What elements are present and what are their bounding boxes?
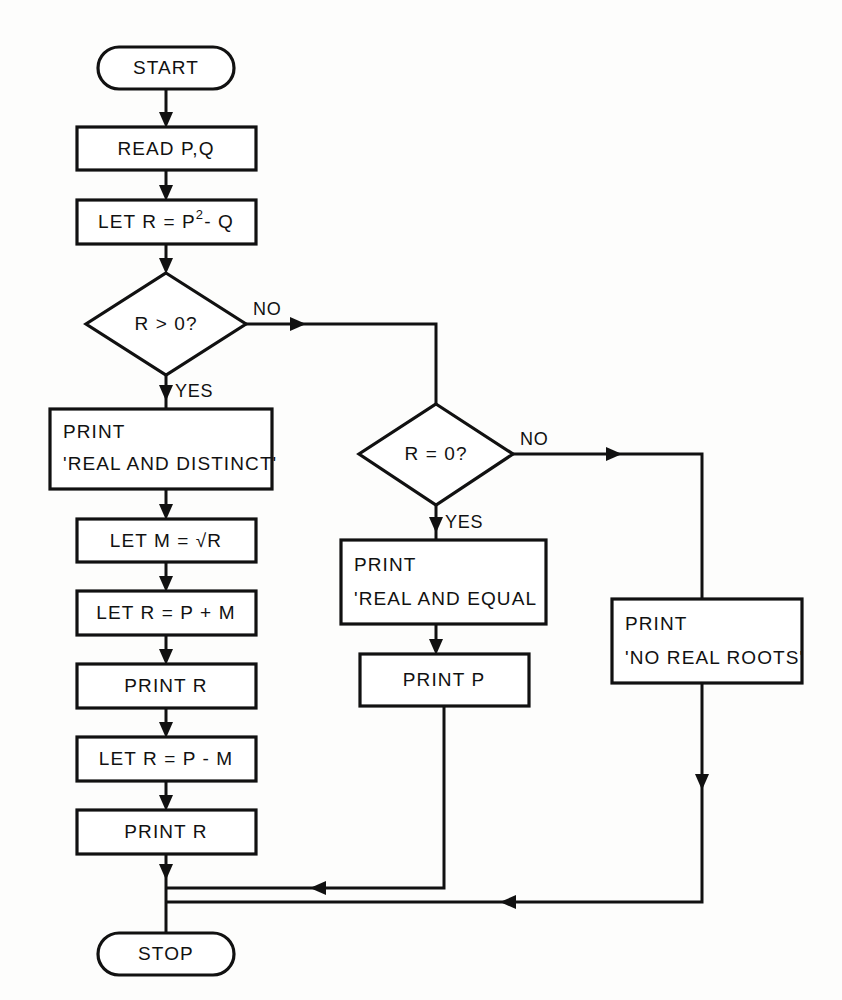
print-p-label: PRINT P <box>403 669 485 690</box>
let-r-disc-label: LET R = P2- Q <box>98 207 234 232</box>
let-r-disc-post: - Q <box>204 211 234 232</box>
node-print-r-first[interactable]: PRINT R <box>77 664 256 708</box>
edge-letr-to-decision-gt <box>159 244 173 274</box>
print-equal-line2: 'REAL AND EQUAL <box>354 588 537 609</box>
arrow-right-icon <box>606 447 622 461</box>
decision-eq-label: R = 0? <box>404 443 467 464</box>
node-print-p[interactable]: PRINT P <box>360 654 529 706</box>
stop-label: STOP <box>138 943 194 964</box>
print-distinct-line2: 'REAL AND DISTINCT' <box>63 453 277 474</box>
edge-printp-to-merge <box>167 706 444 895</box>
read-label: READ P,Q <box>117 138 214 159</box>
edge-read-to-letr <box>159 170 173 201</box>
arrow-right-icon <box>290 317 306 331</box>
flowchart-page: START READ P,Q LET R = P2- Q <box>0 0 842 1000</box>
node-let-m[interactable]: LET M = √R <box>77 519 256 562</box>
print-noroots-line2: 'NO REAL ROOTS' <box>625 647 804 668</box>
decision-gt-no-label: NO <box>253 299 282 319</box>
node-decision-r-greater-zero[interactable]: R > 0? <box>86 273 246 375</box>
edge-letm-to-letrplus <box>159 562 173 592</box>
arrow-down-icon <box>695 774 709 790</box>
print-noroots-line1: PRINT <box>625 613 688 634</box>
node-let-r-plus-m[interactable]: LET R = P + M <box>77 591 256 635</box>
let-r-plus-label: LET R = P + M <box>96 602 235 623</box>
edge-printequal-to-printp <box>429 624 443 655</box>
edge-decision-gt-yes: YES <box>159 375 213 409</box>
node-print-real-and-distinct[interactable]: PRINT 'REAL AND DISTINCT' <box>50 409 277 489</box>
start-label: START <box>133 57 199 78</box>
flowchart-canvas: START READ P,Q LET R = P2- Q <box>0 0 842 1000</box>
node-print-r-second[interactable]: PRINT R <box>77 810 256 854</box>
edge-printr1-to-letrminus <box>159 708 173 738</box>
let-m-label: LET M = √R <box>110 530 222 551</box>
node-print-real-and-equal[interactable]: PRINT 'REAL AND EQUAL <box>341 540 546 624</box>
let-r-minus-label: LET R = P - M <box>99 748 234 769</box>
print-noroots-box-shape <box>612 599 802 683</box>
node-let-r-minus-m[interactable]: LET R = P - M <box>77 737 256 781</box>
decision-eq-yes-label: YES <box>445 512 483 532</box>
decision-gt-label: R > 0? <box>134 313 197 334</box>
arrow-down-icon <box>429 517 443 533</box>
node-print-no-real-roots[interactable]: PRINT 'NO REAL ROOTS' <box>612 599 804 683</box>
print-distinct-line1: PRINT <box>63 421 126 442</box>
print-r2-label: PRINT R <box>124 821 207 842</box>
edge-letrminus-to-printr2 <box>159 781 173 811</box>
arrow-down-icon <box>159 864 173 880</box>
edge-decision-gt-no: NO <box>246 299 436 404</box>
node-let-r-discriminant[interactable]: LET R = P2- Q <box>77 200 256 244</box>
edge-letrplus-to-printr1 <box>159 635 173 665</box>
node-stop[interactable]: STOP <box>98 933 234 975</box>
decision-eq-no-label: NO <box>520 429 549 449</box>
arrow-left-icon <box>500 895 516 909</box>
let-r-disc-pre: LET R = P <box>98 211 196 232</box>
edge-printr2-to-stop <box>159 854 173 934</box>
print-equal-line1: PRINT <box>354 554 417 575</box>
node-start[interactable]: START <box>98 47 234 89</box>
arrow-down-icon <box>159 385 173 401</box>
print-equal-box-shape <box>341 540 546 624</box>
arrow-left-icon <box>310 881 326 895</box>
edge-start-to-read <box>159 89 173 128</box>
let-r-disc-superscript: 2 <box>196 207 204 222</box>
edge-decision-eq-yes: YES <box>429 505 483 541</box>
node-read[interactable]: READ P,Q <box>77 127 256 170</box>
print-r1-label: PRINT R <box>124 675 207 696</box>
edge-distinct-to-letm <box>159 489 173 520</box>
decision-gt-yes-label: YES <box>175 381 213 401</box>
edge-noroots-to-merge <box>167 683 709 909</box>
node-decision-r-equals-zero[interactable]: R = 0? <box>359 404 513 505</box>
